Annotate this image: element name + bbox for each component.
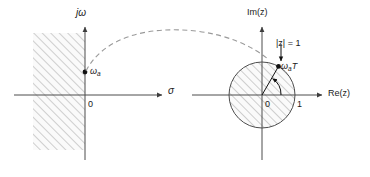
figure-canvas: [0, 0, 370, 177]
im-axis-label: Im(z): [247, 8, 268, 17]
unit-circle-magnitude-text: |z| = 1: [276, 38, 300, 48]
left-half-plane-region: [33, 33, 85, 150]
angle-label-symbol: ω: [281, 61, 288, 71]
omega-a-label-subscript: a: [97, 70, 101, 77]
angle-label-period-symbol: T: [292, 61, 298, 71]
z-plane-origin-label: 0: [265, 100, 270, 109]
s-plane-to-z-plane-mapping-figure: jω σ 0 ωa Im(z) Re(z) 0 1 |z| = 1 ωaT: [0, 0, 370, 177]
z-plane-panel: [192, 27, 322, 160]
omega-a-label: ωa: [90, 67, 101, 78]
sigma-axis-label: σ: [168, 86, 174, 96]
unit-point-label: 1: [297, 100, 302, 109]
unit-circle-magnitude-label: |z| = 1: [276, 39, 300, 48]
omega-a-label-symbol: ω: [90, 66, 97, 76]
s-plane-origin-label: 0: [88, 100, 93, 109]
s-plane-panel: [14, 27, 162, 160]
s-to-z-mapping-arc: [86, 30, 268, 71]
angle-omega-a-t-label: ωaT: [281, 62, 297, 73]
re-axis-label: Re(z): [328, 89, 350, 98]
jomega-axis-label: jω: [76, 8, 86, 18]
